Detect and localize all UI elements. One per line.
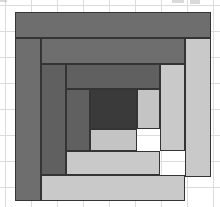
quilt-patch-center [90, 89, 137, 129]
cropped-text-mark-1 [172, 0, 184, 3]
cropped-text-mark-2 [190, 0, 200, 4]
grid-line-horizontal [0, 5, 220, 6]
cropped-text-mark-3 [0, 0, 7, 2]
quilt-patch-round3-top [66, 64, 160, 89]
quilt-patch-round3-right [137, 89, 160, 129]
quilt-patch-round3-left [66, 89, 90, 151]
quilt-patch-round1-top [15, 12, 211, 38]
quilt-patch-round2-right [160, 64, 185, 151]
quilt-patch-round1-right [185, 38, 211, 177]
quilt-patch-round2-left [41, 64, 66, 175]
image-canvas [0, 0, 220, 207]
quilt-patch-round1-left [15, 38, 41, 201]
quilt-patch-round2-top [41, 38, 185, 64]
quilt-patch-round2-bottom [66, 151, 160, 175]
log-cabin-quilt-block [15, 12, 211, 201]
quilt-patch-round1-bottom [41, 175, 185, 201]
quilt-patch-round3-bottom [90, 129, 137, 151]
